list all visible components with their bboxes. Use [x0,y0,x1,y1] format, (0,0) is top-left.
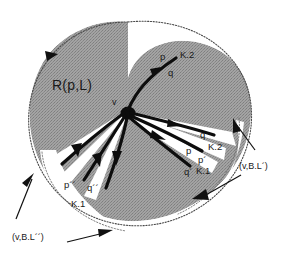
region-label: R(p,L) [52,78,92,92]
diagram-figure: R(p,L) v p q K.2 q K.2 p p´ q´ K.1 p´´ q… [0,0,289,258]
annotation-bottom-left-label: (v,B.L´´) [12,233,44,242]
right-upper-label-q: q [200,130,205,140]
pointer-arrow-icon-left [16,179,32,219]
lower-left-label-q-double-prime: q´´ [87,183,99,193]
right-lower-label-q-prime: q´ [184,167,192,177]
top-branch-label-p: p [160,52,165,62]
right-lower-cone-label: K.1 [196,166,210,176]
annotation-right-label: (v,B.L´) [239,162,268,171]
top-branch-label-q: q [168,68,173,78]
diagram-canvas [0,0,289,258]
lower-left-cone-label: K.1 [71,199,85,209]
right-lower-label-p-prime: p´ [198,155,206,165]
vertex-label: v [112,98,117,107]
right-lower-label-p: p [186,146,191,156]
top-branch-cone-label: K.2 [180,50,194,60]
right-upper-cone-label: K.2 [208,142,222,152]
pointer-arrow-head-bottom [98,229,113,237]
pointer-arrow-icon-bottom [67,233,104,242]
lower-left-label-p-double-prime: p´´ [64,180,76,190]
